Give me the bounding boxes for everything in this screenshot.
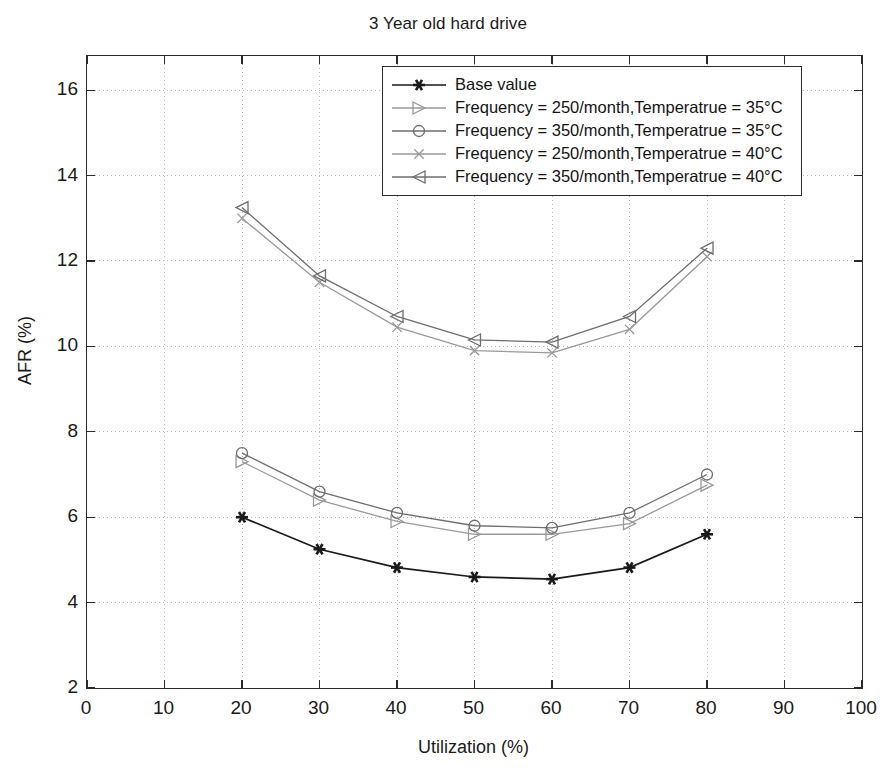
chart-figure: 3 Year old hard drive 246810121416 01020… — [0, 0, 896, 775]
x-tick-label: 100 — [831, 698, 891, 717]
data-point-marker — [391, 562, 403, 572]
asterisk-icon — [391, 75, 447, 95]
x-tick-label: 40 — [366, 698, 426, 717]
y-tick-label: 6 — [30, 506, 78, 525]
y-axis-label: AFR (%) — [15, 271, 36, 431]
legend-item-3[interactable]: Frequency = 250/month,Temperatrue = 40°C — [391, 142, 793, 165]
x-axis-label: Utilization (%) — [86, 737, 861, 758]
x-tick-label: 60 — [521, 698, 581, 717]
chart-title: 3 Year old hard drive — [0, 14, 896, 34]
series-3 — [237, 214, 711, 358]
x-tick-label: 10 — [134, 698, 194, 717]
chart-legend: Base valueFrequency = 250/month,Temperat… — [382, 66, 802, 196]
x-tick-label: 0 — [56, 698, 116, 717]
legend-item-0[interactable]: Base value — [391, 73, 793, 96]
x-mark-icon — [391, 144, 447, 164]
x-tick-label: 70 — [599, 698, 659, 717]
legend-item-2[interactable]: Frequency = 350/month,Temperatrue = 35°C — [391, 119, 793, 142]
y-tick-label: 2 — [30, 677, 78, 696]
triangle-left-icon — [391, 167, 447, 187]
legend-item-label: Frequency = 350/month,Temperatrue = 40°C — [455, 168, 783, 185]
y-tick-label: 14 — [30, 165, 78, 184]
data-point-marker — [413, 79, 425, 89]
x-tick-label: 20 — [211, 698, 271, 717]
data-point-marker — [546, 574, 558, 584]
y-tick-label: 4 — [30, 592, 78, 611]
legend-item-1[interactable]: Frequency = 250/month,Temperatrue = 35°C — [391, 96, 793, 119]
circle-icon — [391, 121, 447, 141]
legend-item-4[interactable]: Frequency = 350/month,Temperatrue = 40°C — [391, 165, 793, 188]
x-tick-label: 90 — [754, 698, 814, 717]
data-point-marker — [701, 529, 713, 539]
x-axis-tick-labels: 0102030405060708090100 — [86, 698, 861, 724]
triangle-right-icon — [391, 98, 447, 118]
x-tick-label: 50 — [444, 698, 504, 717]
data-point-marker — [237, 214, 246, 223]
legend-item-label: Frequency = 250/month,Temperatrue = 35°C — [455, 99, 783, 116]
y-tick-label: 16 — [30, 79, 78, 98]
series-4 — [236, 202, 713, 349]
legend-item-label: Base value — [455, 76, 537, 93]
legend-item-label: Frequency = 250/month,Temperatrue = 40°C — [455, 145, 783, 162]
x-tick-label: 30 — [289, 698, 349, 717]
y-tick-label: 10 — [30, 335, 78, 354]
data-point-marker — [624, 562, 636, 572]
data-point-marker — [392, 322, 401, 331]
legend-item-label: Frequency = 350/month,Temperatrue = 35°C — [455, 122, 783, 139]
x-tick-label: 80 — [676, 698, 736, 717]
y-tick-label: 12 — [30, 250, 78, 269]
y-tick-label: 8 — [30, 421, 78, 440]
